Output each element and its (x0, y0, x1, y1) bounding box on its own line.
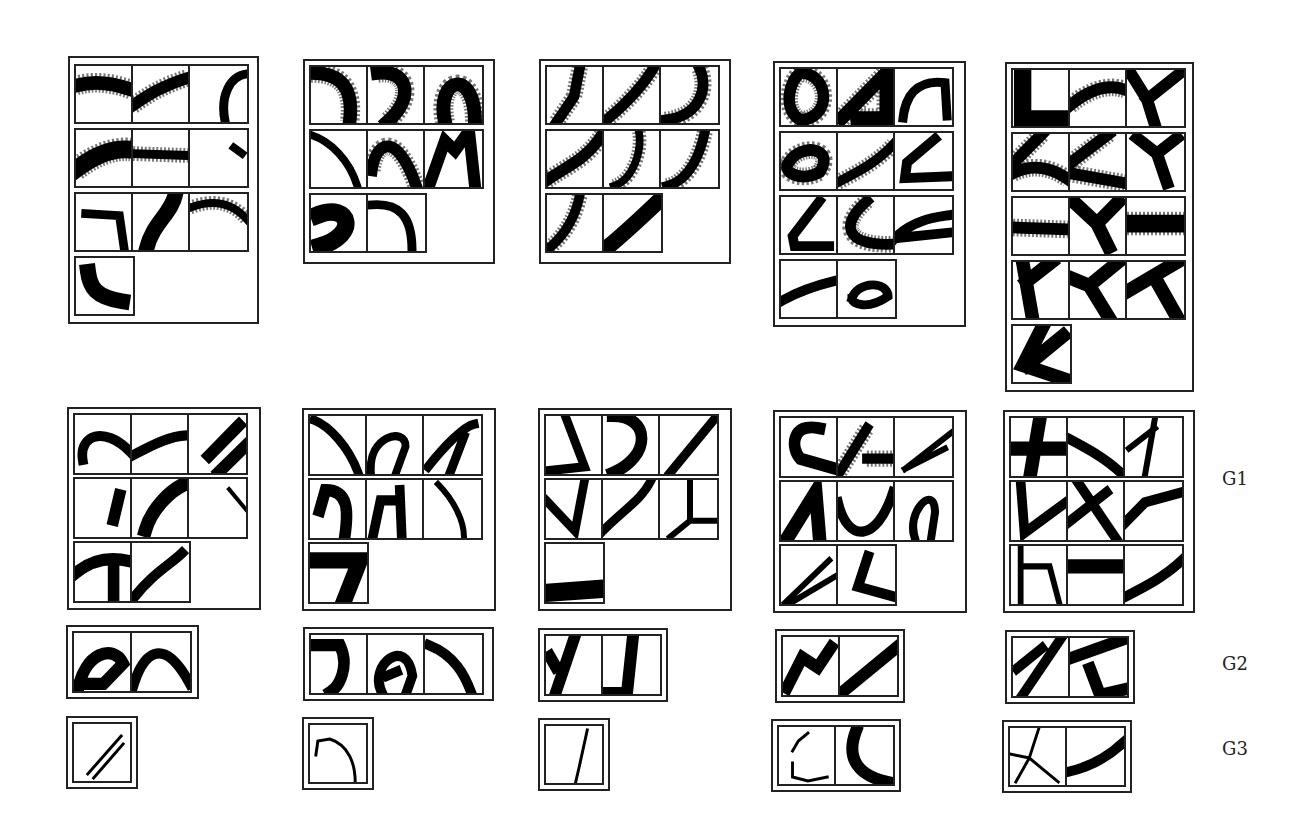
panel-row3-col1 (66, 625, 199, 699)
stroke-fragment-icon (76, 66, 131, 122)
panel-row4-col1 (66, 716, 138, 789)
stroke-fragment-icon (546, 636, 601, 694)
stroke-fragment-icon (76, 258, 133, 314)
stroke-fragment-icon (1070, 198, 1125, 254)
glyph-tile (1127, 262, 1184, 318)
tile-strip (544, 542, 605, 604)
glyph-tile (546, 544, 603, 602)
glyph-tile (1011, 482, 1068, 540)
glyph-tile (781, 482, 838, 540)
glyph-tile (546, 416, 603, 474)
stroke-fragment-icon (661, 67, 718, 123)
tile-strip (1009, 480, 1184, 542)
glyph-tile (1011, 418, 1068, 476)
glyph-tile (603, 416, 660, 474)
glyph-tile (310, 416, 367, 474)
tile-strip (74, 256, 135, 316)
stroke-fragment-icon (1067, 728, 1124, 785)
glyph-tile (1070, 198, 1127, 254)
glyph-tile (424, 480, 481, 538)
glyph-tile (311, 131, 368, 187)
glyph-tile (190, 194, 247, 250)
glyph-tile (661, 131, 718, 187)
stroke-fragment-icon (895, 69, 952, 125)
glyph-tile (76, 130, 133, 186)
glyph-tile (604, 131, 661, 187)
panel-row1-col4 (773, 61, 966, 327)
stroke-fragment-icon (311, 635, 366, 693)
stroke-fragment-icon (1127, 134, 1184, 190)
glyph-tile (546, 636, 603, 694)
stroke-fragment-icon (840, 637, 897, 695)
glyph-tile (311, 195, 368, 251)
glyph-tile (132, 479, 189, 537)
stroke-fragment-icon (1127, 262, 1184, 318)
stroke-fragment-icon (604, 195, 661, 251)
glyph-tile (895, 69, 952, 125)
stroke-fragment-icon (1011, 482, 1066, 540)
glyph-tile (132, 543, 189, 601)
stroke-fragment-icon (1125, 418, 1182, 476)
glyph-tile (1013, 198, 1070, 254)
glyph-tile (838, 546, 895, 604)
glyph-tile (367, 480, 424, 538)
stroke-fragment-icon (1068, 418, 1123, 476)
stroke-fragment-icon (190, 194, 247, 250)
stroke-fragment-icon (895, 197, 952, 253)
tile-strip (1009, 544, 1184, 606)
stroke-fragment-icon (1127, 198, 1184, 254)
stroke-fragment-icon (132, 479, 187, 537)
panel-row3-col5 (1005, 630, 1135, 704)
stroke-fragment-icon (132, 633, 190, 691)
glyph-tile (838, 261, 895, 317)
tile-strip (74, 192, 249, 252)
stroke-fragment-icon (781, 197, 836, 253)
stroke-fragment-icon (425, 67, 482, 123)
stroke-fragment-icon (1010, 728, 1065, 785)
glyph-tile (425, 131, 482, 187)
tile-strip (779, 131, 954, 191)
glyph-tile (838, 133, 895, 189)
stroke-fragment-icon (838, 418, 893, 476)
glyph-tile (1070, 262, 1127, 318)
tile-strip (1011, 68, 1186, 128)
stroke-fragment-icon (660, 480, 717, 538)
glyph-tile (781, 261, 838, 317)
glyph-tile (783, 637, 840, 695)
tile-strip (545, 129, 720, 189)
stroke-fragment-icon (603, 480, 658, 538)
stroke-fragment-icon (310, 725, 366, 782)
stroke-fragment-icon (660, 416, 717, 474)
stroke-fragment-icon (781, 546, 836, 604)
stroke-fragment-icon (1070, 70, 1125, 126)
glyph-tile (781, 418, 838, 476)
stroke-fragment-icon (310, 416, 365, 474)
tile-strip (779, 544, 897, 606)
tile-strip (544, 414, 719, 476)
glyph-tile (74, 724, 130, 781)
tile-strip (1009, 416, 1184, 478)
tile-strip (308, 723, 368, 784)
tile-strip (544, 724, 604, 785)
glyph-tile (1070, 638, 1127, 696)
panel-row2-col4 (773, 410, 967, 613)
tile-strip (1011, 324, 1072, 384)
stroke-fragment-icon (781, 482, 836, 540)
glyph-tile (1125, 418, 1182, 476)
stroke-fragment-icon (133, 66, 188, 122)
glyph-tile (661, 67, 718, 123)
glyph-tile (1013, 70, 1070, 126)
stroke-fragment-icon (1125, 482, 1182, 540)
stroke-fragment-icon (1013, 70, 1068, 126)
glyph-tile (367, 416, 424, 474)
panel-row4-col4 (771, 719, 901, 792)
tile-strip (1011, 196, 1186, 256)
glyph-tile (546, 726, 602, 783)
glyph-tile (133, 130, 190, 186)
glyph-tile (838, 482, 895, 540)
tile-strip (779, 259, 897, 319)
glyph-tile (310, 480, 367, 538)
glyph-tile (74, 633, 132, 691)
tile-strip (73, 541, 191, 603)
stroke-fragment-icon (895, 133, 952, 189)
